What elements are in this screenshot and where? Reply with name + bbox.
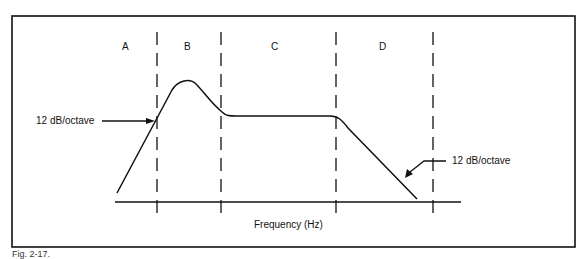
right-annotation-leader [410, 161, 446, 172]
figure-caption: Fig. 2-17. [12, 249, 50, 259]
region-label-a: A [122, 41, 129, 52]
region-label-b: B [184, 41, 191, 52]
response-curve [117, 81, 417, 199]
region-label-c: C [271, 41, 278, 52]
right-slope-label: 12 dB/octave [452, 155, 510, 166]
figure-frame [12, 16, 575, 247]
x-axis-label: Frequency (Hz) [254, 219, 323, 230]
region-label-d: D [379, 41, 386, 52]
left-slope-label: 12 dB/octave [36, 115, 94, 126]
